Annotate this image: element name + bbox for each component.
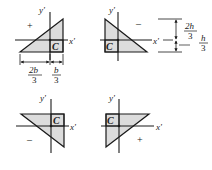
dimension-2h-denominator: 3 [188, 31, 193, 41]
sign-label: – [135, 18, 142, 29]
centroid-dot [50, 125, 53, 128]
sign-label: + [137, 134, 143, 145]
centroid-label: C [52, 41, 59, 52]
x-axis-label: x' [152, 36, 160, 46]
dimension-b-denominator: 3 [54, 75, 59, 85]
x-axis-label: x' [68, 36, 76, 46]
centroid-label: C [106, 41, 113, 52]
sign-label: – [26, 134, 33, 145]
centroid-label: C [53, 115, 60, 126]
dimension-2h-numerator: 2h [185, 21, 195, 31]
sign-label: + [27, 20, 33, 31]
dimension-h-numerator: h [201, 33, 206, 43]
y-axis-label: y' [39, 93, 47, 103]
dimension-h-denominator: 3 [201, 43, 206, 53]
y-axis-label: y' [108, 93, 116, 103]
centroid-label: C [107, 115, 114, 126]
dimension-2b-numerator: 2b [29, 65, 39, 75]
y-axis-label: y' [38, 5, 46, 15]
y-axis-label: y' [108, 5, 116, 15]
centroid-dot [49, 39, 52, 42]
panel-top-left: y' x' C + 2b 3 b 3 [15, 5, 76, 85]
diagram-canvas: y' x' C + 2b 3 b 3 y' x' C – 2h [0, 0, 212, 170]
panel-bottom-right: y' x' C + [101, 93, 163, 153]
x-axis-label: x' [155, 122, 163, 132]
x-axis-label: x' [69, 122, 77, 132]
centroid-dot [118, 125, 121, 128]
dimension-2b-denominator: 3 [32, 75, 37, 85]
panel-top-right: y' x' C – 2h 3 h 3 [100, 5, 208, 61]
centroid-dot [117, 39, 120, 42]
dimension-b-numerator: b [54, 65, 59, 75]
panel-bottom-left: y' x' C – [16, 93, 77, 153]
